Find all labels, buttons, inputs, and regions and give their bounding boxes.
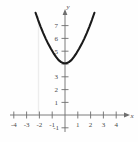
x-axis-arrow [124, 113, 130, 118]
x-axis-label: x [129, 112, 134, 120]
y-axis-label: y [66, 3, 71, 11]
y-tick-label-7: 7 [55, 22, 59, 30]
y-tick-label-3: 3 [55, 73, 59, 81]
parabola-graph-figure: -4 -3 -2 -1 1 2 3 4 7 6 5 3 2 1 -1 y x [0, 0, 138, 142]
y-tick-label--1: -1 [53, 124, 59, 132]
x-tick-label-1: 1 [76, 121, 80, 129]
x-tick-label--3: -3 [24, 121, 30, 129]
x-tick-label-2: 2 [89, 121, 93, 129]
x-tick-label-3: 3 [102, 121, 106, 129]
y-tick-label-1: 1 [55, 99, 59, 107]
x-tick-label--4: -4 [11, 121, 17, 129]
y-tick-label-2: 2 [55, 86, 59, 94]
y-tick-label-6: 6 [55, 35, 59, 43]
x-tick-label-4: 4 [114, 121, 118, 129]
plot-area: -4 -3 -2 -1 1 2 3 4 7 6 5 3 2 1 -1 y x [0, 0, 138, 142]
x-tick-label--2: -2 [36, 121, 42, 129]
